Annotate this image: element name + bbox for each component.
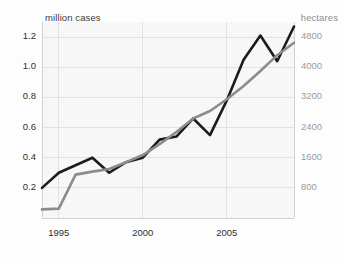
chart-canvas [0, 0, 344, 258]
horizontal-gridlines [42, 37, 294, 188]
right-tick-label: 2400 [301, 121, 322, 132]
right-axis-title: hectares [301, 12, 338, 23]
left-tick-label: 0.6 [23, 121, 36, 132]
left-tick-label: 0.8 [23, 90, 36, 101]
vertical-gridlines [59, 22, 227, 218]
x-tick-label: 1995 [37, 227, 81, 238]
right-tick-label: 1600 [301, 151, 322, 162]
left-tick-label: 1.2 [23, 30, 36, 41]
right-tick-label: 4800 [301, 30, 322, 41]
left-tick-label: 1.0 [23, 60, 36, 71]
right-tick-label: 4000 [301, 60, 322, 71]
left-axis-title: million cases [45, 12, 101, 23]
axis-spines [42, 22, 294, 218]
right-tick-label: 800 [301, 181, 317, 192]
x-tick-label: 2005 [205, 227, 249, 238]
series-line-1 [42, 27, 294, 188]
left-tick-label: 0.2 [23, 181, 36, 192]
data-series-layer [42, 27, 294, 210]
x-tick-label: 2000 [121, 227, 165, 238]
line-chart: million cases hectares 0.20.40.60.81.01.… [0, 0, 344, 258]
right-tick-label: 3200 [301, 90, 322, 101]
left-tick-label: 0.4 [23, 151, 36, 162]
